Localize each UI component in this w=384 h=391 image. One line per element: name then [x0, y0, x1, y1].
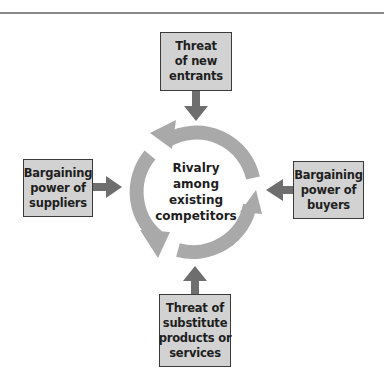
box-line: entrants — [169, 69, 223, 84]
box-line: substitute — [163, 316, 228, 331]
cycle-arrowhead-top-icon — [150, 120, 176, 149]
center-line-3: existing — [146, 192, 246, 208]
arrow-right-icon — [93, 176, 122, 198]
center-line-1: Rivalry — [146, 160, 246, 176]
cycle-arrowhead-bottom-icon — [140, 230, 170, 258]
box-line: of new — [175, 54, 217, 69]
box-line: Threat of — [166, 301, 224, 316]
center-line-4: competitors — [146, 208, 246, 224]
box-line: power of — [301, 183, 357, 198]
force-box-buyers: Bargaining power of buyers — [293, 161, 364, 219]
box-line: Bargaining — [24, 166, 93, 181]
box-line: Threat — [175, 39, 217, 54]
center-line-2: among — [146, 176, 246, 192]
force-box-new-entrants: Threat of new entrants — [160, 32, 232, 91]
box-line: Bargaining — [294, 168, 363, 183]
box-line: services — [169, 346, 221, 361]
arrow-up-icon — [183, 266, 207, 294]
box-line: power of — [30, 181, 86, 196]
rivalry-label: Rivalry among existing competitors — [146, 160, 246, 224]
arrow-down-icon — [184, 91, 208, 121]
box-line: suppliers — [29, 196, 87, 211]
force-box-suppliers: Bargaining power of suppliers — [23, 159, 93, 217]
box-line: products or — [159, 331, 232, 346]
force-box-substitutes: Threat of substitute products or service… — [159, 294, 231, 367]
box-line: buyers — [307, 198, 350, 213]
arrow-left-icon — [266, 179, 293, 201]
